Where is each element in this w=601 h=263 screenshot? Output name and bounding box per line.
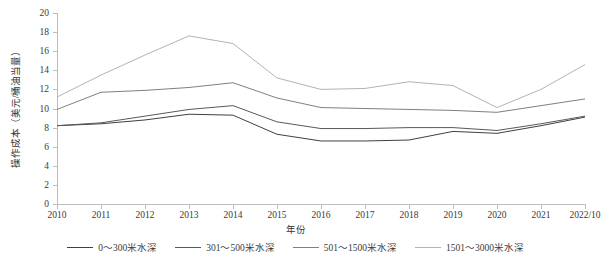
y-tick-label: 2	[23, 180, 49, 190]
legend-swatch-icon	[67, 247, 93, 248]
x-tick-label: 2022/10	[569, 210, 600, 220]
y-tick-label: 18	[23, 27, 49, 37]
y-tick-label: 6	[23, 142, 49, 152]
legend-label: 501～1500米水深	[324, 240, 397, 254]
x-tick-label: 2014	[224, 210, 243, 220]
legend-swatch-icon	[175, 247, 201, 248]
x-tick-mark	[277, 205, 278, 209]
legend-label: 0～300米水深	[98, 240, 157, 254]
x-tick-label: 2016	[312, 210, 331, 220]
series-lines	[57, 13, 585, 204]
legend-item-3[interactable]: 1501～3000米水深	[415, 240, 524, 254]
x-tick-mark	[233, 205, 234, 209]
x-tick-mark	[453, 205, 454, 209]
legend-item-0[interactable]: 0～300米水深	[67, 240, 157, 254]
legend-item-1[interactable]: 301～500米水深	[175, 240, 275, 254]
y-tick-label: 8	[23, 123, 49, 133]
x-tick-mark	[321, 205, 322, 209]
legend-swatch-icon	[293, 247, 319, 248]
legend-swatch-icon	[415, 247, 441, 248]
plot-area	[57, 13, 585, 204]
y-tick-label: 20	[23, 8, 49, 18]
x-tick-mark	[189, 205, 190, 209]
y-tick-label: 16	[23, 46, 49, 56]
x-tick-label: 2012	[136, 210, 155, 220]
x-tick-label: 2013	[180, 210, 199, 220]
x-tick-label: 2011	[92, 210, 111, 220]
x-tick-mark	[57, 205, 58, 209]
y-axis-title: 操作成本（美元/桶油当量）	[8, 2, 24, 212]
y-tick-label: 14	[23, 65, 49, 75]
series-line-3	[57, 36, 585, 108]
x-tick-label: 2010	[48, 210, 67, 220]
y-tick-label: 10	[23, 104, 49, 114]
legend-label: 301～500米水深	[206, 240, 275, 254]
y-tick-label: 4	[23, 161, 49, 171]
x-tick-label: 2019	[444, 210, 463, 220]
x-tick-mark	[585, 205, 586, 209]
x-tick-mark	[145, 205, 146, 209]
x-tick-label: 2017	[356, 210, 375, 220]
x-tick-mark	[409, 205, 410, 209]
y-tick-label: 0	[23, 199, 49, 209]
series-line-1	[57, 106, 585, 131]
x-tick-mark	[101, 205, 102, 209]
x-axis-title: 年份	[0, 222, 591, 236]
legend-item-2[interactable]: 501～1500米水深	[293, 240, 397, 254]
x-tick-label: 2018	[400, 210, 419, 220]
x-tick-mark	[541, 205, 542, 209]
x-tick-label: 2020	[488, 210, 507, 220]
x-tick-mark	[365, 205, 366, 209]
series-line-2	[57, 83, 585, 113]
chart-legend: 0～300米水深301～500米水深501～1500米水深1501～3000米水…	[0, 240, 591, 254]
x-tick-label: 2021	[532, 210, 551, 220]
series-line-0	[57, 114, 585, 141]
x-tick-label: 2015	[268, 210, 287, 220]
x-tick-mark	[497, 205, 498, 209]
y-tick-label: 12	[23, 84, 49, 94]
legend-label: 1501～3000米水深	[446, 240, 524, 254]
